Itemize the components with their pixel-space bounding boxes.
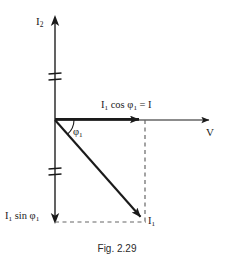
label-phi1-sub: 1 (79, 131, 83, 139)
label-phi1-angle: φ1 (73, 127, 83, 138)
axis-break-mark-upper-a (49, 73, 62, 74)
axis-break-mark-lower-a (49, 168, 62, 169)
label-i1-vector-base: I (148, 215, 152, 226)
label-i1-cos-phi1-equals-i: = I (137, 99, 152, 110)
axis-label-i2: I2 (36, 16, 43, 27)
label-i1-cos-phi1-cos: cos φ (108, 99, 133, 110)
label-i1-sin-phi1-sub1: 1 (9, 215, 13, 223)
label-i1-sin-phi1-sin: sin φ (12, 210, 36, 221)
axis-break-mark-upper-b (49, 79, 62, 80)
axis-label-v: V (206, 127, 214, 138)
label-i1-sin-phi1-i: I (5, 210, 9, 221)
label-i1-sin-phi1: I1 sin φ1 (5, 211, 39, 222)
label-i1-cos-phi1-sub1: 1 (105, 104, 109, 112)
i1-phasor-vector (55, 120, 141, 217)
axis-break-mark-lower-b (49, 174, 62, 175)
label-i1-cos-phi1-sub2: 1 (133, 104, 137, 112)
label-i1-cos-phi1: I1 cos φ1 = I (101, 100, 152, 111)
label-i1-cos-phi1-i: I (101, 99, 105, 110)
label-i1-vector-sub: 1 (152, 220, 156, 228)
phasor-diagram-figure: I2 V I1 cos φ1 = I φ1 I1 sin φ1 I1 Fig. … (0, 0, 234, 268)
label-i1-sin-phi1-sub2: 1 (36, 215, 40, 223)
phasor-diagram-canvas (0, 0, 234, 268)
figure-caption: Fig. 2.29 (0, 244, 234, 254)
label-i1-vector: I1 (148, 216, 155, 227)
axis-label-i2-sub: 2 (40, 20, 44, 29)
